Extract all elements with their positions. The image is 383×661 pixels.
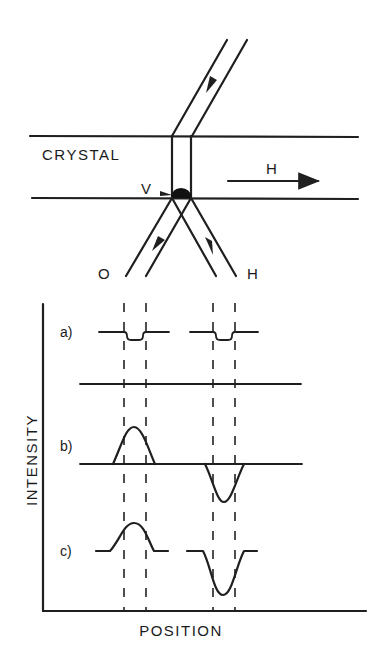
crystal-top-surface: [30, 136, 358, 137]
h-beam-left-edge: [172, 198, 216, 276]
o-beam-arrow-icon: [152, 236, 165, 251]
curve-a-label: a): [60, 324, 72, 340]
o-beam-label: O: [98, 265, 111, 282]
o-beam-right-edge: [146, 198, 191, 276]
dynamical-diffraction-figure: CRYSTAL V H O H a): [0, 0, 383, 661]
curve-c: [96, 523, 257, 595]
y-axis-label: INTENSITY: [23, 414, 40, 506]
h-beam-right-edge: [191, 198, 236, 276]
curve-b-label: b): [60, 438, 72, 454]
curve-c-label: c): [60, 543, 72, 559]
crystal-bottom-surface: [32, 198, 358, 199]
h-vector-label: H: [266, 160, 278, 177]
crystal-label: CRYSTAL: [42, 146, 120, 163]
vertex-dot-icon: [171, 188, 192, 198]
vertex-label: V: [141, 180, 153, 197]
o-beam-left-edge: [126, 198, 172, 276]
x-axis-label: POSITION: [139, 622, 223, 639]
crystal-schematic: CRYSTAL V H O H: [30, 40, 358, 282]
vertex-pointer-arrow-icon: [160, 191, 172, 196]
h-beam-arrow-icon: [205, 237, 213, 255]
h-beam-label: H: [247, 265, 259, 282]
curve-b: [80, 427, 302, 502]
intensity-plot: a) b) c) INTENSITY POSITION: [23, 303, 366, 639]
incident-beam-arrow-icon: [206, 76, 217, 93]
curve-a: [99, 332, 258, 340]
